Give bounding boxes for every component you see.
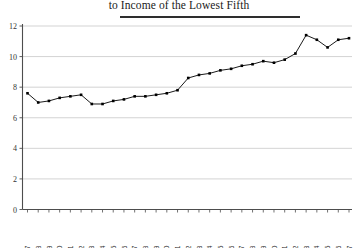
y-tick-label: 8 — [13, 83, 17, 92]
data-point-marker — [219, 69, 222, 72]
data-point-marker — [208, 72, 211, 75]
line-chart-plot: 024681012 196719681969197019711972197319… — [0, 0, 358, 248]
x-axis: 1967196819691970197119721973197419751976… — [23, 210, 353, 248]
data-point-marker — [337, 38, 340, 41]
data-point-marker — [144, 95, 147, 98]
data-point-marker — [262, 60, 265, 63]
data-point-marker — [166, 92, 169, 95]
data-point-marker — [37, 101, 40, 104]
data-point-marker — [112, 100, 115, 103]
y-tick-label: 0 — [13, 206, 17, 215]
data-point-marker — [101, 103, 104, 106]
data-point-marker — [230, 68, 233, 71]
data-point-marker — [305, 34, 308, 37]
y-tick-label: 12 — [9, 22, 17, 31]
data-point-marker — [155, 94, 158, 97]
data-point-marker — [283, 58, 286, 61]
data-series-line — [28, 35, 350, 104]
data-series-markers — [26, 34, 350, 105]
y-axis: 024681012 — [9, 22, 23, 215]
y-tick-label: 2 — [13, 175, 17, 184]
data-point-marker — [26, 92, 29, 95]
data-point-marker — [251, 63, 254, 66]
data-point-marker — [58, 97, 61, 100]
data-point-marker — [198, 74, 201, 77]
data-point-marker — [80, 94, 83, 97]
gridlines — [23, 26, 353, 179]
y-tick-label: 4 — [13, 144, 17, 153]
data-point-marker — [48, 100, 51, 103]
data-point-marker — [91, 103, 94, 106]
data-point-marker — [326, 46, 329, 49]
y-tick-label: 6 — [13, 114, 17, 123]
data-point-marker — [176, 89, 179, 92]
data-point-marker — [69, 95, 72, 98]
data-point-marker — [348, 37, 351, 40]
y-tick-label: 10 — [9, 53, 17, 62]
data-point-marker — [273, 61, 276, 64]
data-point-marker — [316, 38, 319, 41]
data-point-marker — [123, 98, 126, 101]
data-point-marker — [133, 95, 136, 98]
chart-figure: to Income of the Lowest Fifth 024681012 … — [0, 0, 358, 248]
series-line — [28, 35, 350, 104]
data-point-marker — [241, 64, 244, 67]
data-point-marker — [294, 52, 297, 55]
data-point-marker — [187, 77, 190, 80]
